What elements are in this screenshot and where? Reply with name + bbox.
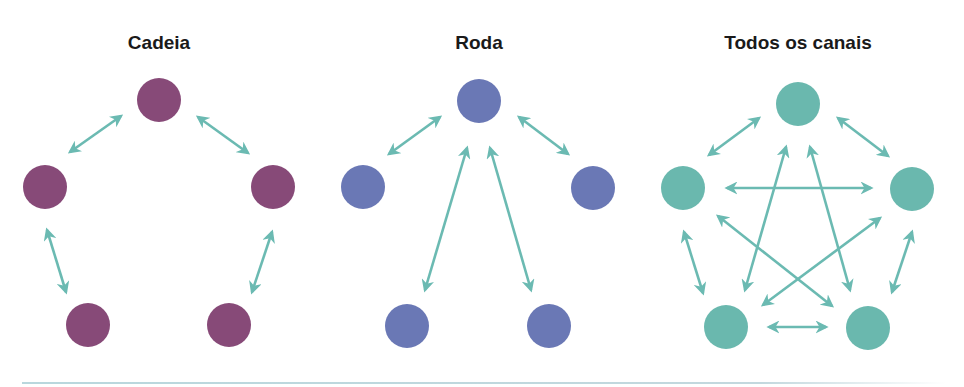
bidirectional-arrow-all-channel — [810, 147, 850, 290]
bidirectional-arrow-all-channel — [684, 232, 703, 293]
node-all-channel — [776, 82, 820, 126]
node-all-channel — [661, 166, 705, 210]
bidirectional-arrow-all-channel — [709, 118, 759, 155]
bidirectional-arrow-wheel — [425, 148, 467, 290]
node-chain — [251, 165, 295, 209]
bidirectional-arrow-wheel — [490, 148, 531, 290]
node-wheel — [571, 166, 615, 210]
node-chain — [66, 303, 110, 347]
bidirectional-arrow-chain — [70, 116, 121, 152]
node-chain — [207, 303, 251, 347]
bidirectional-arrow-chain — [198, 117, 248, 153]
node-all-channel — [846, 306, 890, 350]
node-wheel — [527, 304, 571, 348]
node-wheel — [457, 79, 501, 123]
nodes-layer — [23, 78, 934, 350]
bottom-rule — [22, 382, 946, 384]
node-all-channel — [704, 305, 748, 349]
node-chain — [137, 78, 181, 122]
network-diagrams — [0, 0, 964, 387]
bidirectional-arrow-all-channel — [745, 147, 786, 290]
arrows-layer — [47, 116, 912, 327]
bidirectional-arrow-wheel — [389, 117, 440, 154]
node-wheel — [385, 304, 429, 348]
node-chain — [23, 165, 67, 209]
bidirectional-arrow-all-channel — [763, 218, 880, 305]
bidirectional-arrow-all-channel — [892, 232, 912, 292]
bidirectional-arrow-all-channel — [718, 216, 832, 306]
bidirectional-arrow-wheel — [519, 117, 568, 154]
bidirectional-arrow-chain — [47, 230, 66, 292]
node-all-channel — [890, 167, 934, 211]
bidirectional-arrow-all-channel — [838, 118, 888, 156]
bidirectional-arrow-chain — [252, 232, 272, 292]
node-wheel — [341, 165, 385, 209]
